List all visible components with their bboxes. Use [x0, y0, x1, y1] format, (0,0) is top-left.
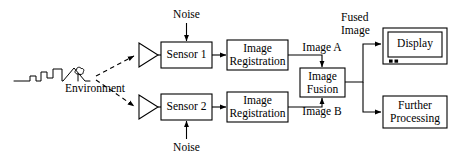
- image-a-label: Image A: [293, 41, 351, 53]
- sensor-1-label: Sensor 1: [161, 48, 212, 60]
- fused-image-label-line1: Fused: [341, 11, 381, 23]
- fusion-label-line1: Image: [300, 70, 345, 82]
- environment-skyline-icon: [14, 67, 90, 81]
- edge-registration-1-to-fusion: [288, 55, 322, 67]
- amplifier-1-triangle: [139, 43, 158, 67]
- noise-bottom-label: Noise: [146, 141, 227, 153]
- further-processing-label-line2: Processing: [381, 112, 449, 124]
- noise-top-label: Noise: [146, 8, 227, 20]
- registration-1-label-line1: Image: [227, 42, 288, 54]
- edge-environment-to-amplifier-1: [96, 56, 134, 76]
- sensor-2-label: Sensor 2: [161, 100, 212, 112]
- fused-image-label-line2: Image: [341, 24, 381, 36]
- edge-fusion-to-further-processing: [363, 82, 381, 112]
- display-label: Display: [388, 37, 442, 49]
- amplifier-2-triangle: [139, 95, 158, 119]
- registration-1-label-line2: Registration: [225, 55, 290, 67]
- fusion-label-line2: Fusion: [300, 83, 345, 95]
- diagram-canvas: Environment Noise Noise Sensor 1 Sensor …: [0, 0, 456, 166]
- environment-label: Environment: [0, 82, 190, 94]
- further-processing-label-line1: Further: [383, 99, 447, 111]
- registration-2-label-line1: Image: [227, 94, 288, 106]
- registration-2-label-line2: Registration: [225, 107, 290, 119]
- image-b-label: Image B: [293, 105, 351, 117]
